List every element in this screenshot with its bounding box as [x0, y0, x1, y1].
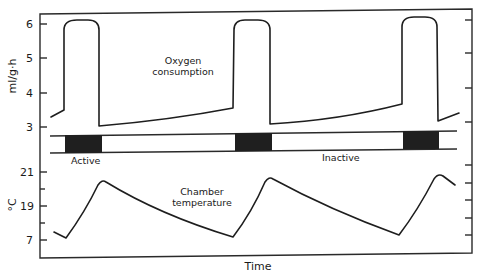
- left-ticks: [40, 24, 47, 240]
- activity-bar: [50, 131, 457, 153]
- y-axis-label-temperature: °C: [6, 198, 19, 212]
- tick-label-3: 3: [26, 121, 33, 134]
- right-ticks: [465, 20, 472, 235]
- oxygen-consumption-line: [51, 17, 459, 126]
- active-block-2: [235, 133, 272, 151]
- active-label: Active: [71, 155, 101, 166]
- tick-label-21: 21: [20, 166, 34, 179]
- tick-label-5: 5: [26, 52, 33, 65]
- tick-label-17: 7: [26, 234, 33, 247]
- physiology-chart: 6 5 4 3 21 19 7 ml/g·h °C Active Inactiv…: [0, 0, 484, 276]
- tick-label-6: 6: [26, 18, 33, 31]
- temperature-annotation-line1: Chamber: [180, 186, 224, 197]
- x-axis-label: Time: [244, 260, 272, 273]
- oxygen-annotation-line2: consumption: [152, 66, 214, 77]
- active-block-1: [65, 135, 102, 153]
- inactive-label: Inactive: [322, 152, 360, 163]
- y-axis-label-oxygen: ml/g·h: [6, 59, 19, 94]
- chamber-temperature-line: [54, 175, 455, 238]
- tick-label-19: 19: [20, 200, 34, 213]
- oxygen-annotation-line1: Oxygen: [165, 55, 202, 66]
- active-block-3: [403, 131, 439, 149]
- tick-label-4: 4: [26, 87, 33, 100]
- temperature-annotation-line2: temperature: [172, 197, 232, 208]
